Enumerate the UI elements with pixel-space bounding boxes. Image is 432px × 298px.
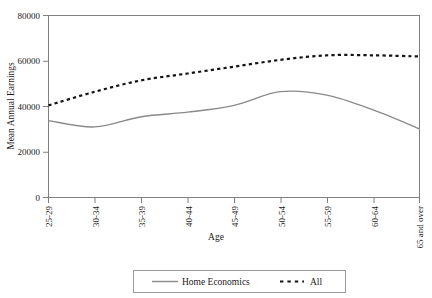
chart-container: 80000 60000 40000 20000 0 Mean Annual Ea… [0, 0, 432, 298]
x-tick-label-45-49: 45-49 [230, 206, 240, 227]
y-tick-label-20000: 20000 [18, 147, 41, 157]
x-tick-label-40-44: 40-44 [184, 206, 194, 227]
line-chart-figure: 80000 60000 40000 20000 0 Mean Annual Ea… [0, 0, 432, 298]
legend-label-all: All [310, 277, 323, 287]
y-tick-label-0: 0 [36, 193, 41, 203]
y-axis-tick-labels: 80000 60000 40000 20000 0 [18, 11, 41, 203]
x-tick-label-25-29: 25-29 [44, 206, 54, 227]
y-tick-label-60000: 60000 [18, 56, 41, 66]
series-line-all [49, 55, 420, 105]
y-axis-ticks [43, 16, 49, 198]
x-tick-label-30-34: 30-34 [91, 206, 101, 227]
x-tick-label-35-39: 35-39 [137, 206, 147, 227]
y-axis-title: Mean Annual Earnings [6, 62, 16, 150]
x-tick-label-55-59: 55-59 [323, 206, 333, 227]
x-tick-label-60-64: 60-64 [370, 206, 380, 227]
series-line-home-economics [49, 91, 420, 129]
chart-legend: Home Economics All [134, 271, 346, 293]
x-axis-ticks [49, 198, 420, 204]
x-axis-tick-labels: 25-29 30-34 35-39 40-44 45-49 50-54 55-5… [44, 206, 425, 249]
legend-label-home-economics: Home Economics [182, 277, 250, 287]
x-tick-label-50-54: 50-54 [277, 206, 287, 227]
y-tick-label-40000: 40000 [18, 102, 41, 112]
x-tick-label-65-and-over: 65 and over [415, 206, 425, 249]
y-tick-label-80000: 80000 [18, 11, 41, 21]
x-axis-title: Age [208, 232, 224, 242]
